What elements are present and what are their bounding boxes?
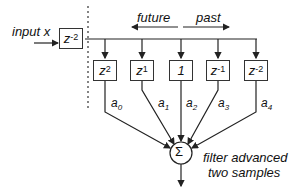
tap-box-3: z-1 bbox=[206, 60, 230, 81]
tap-exp: 2 bbox=[106, 64, 111, 74]
tap-exp: -1 bbox=[217, 64, 225, 74]
future-label: future bbox=[137, 10, 170, 25]
coef-a4: a4 bbox=[261, 96, 272, 112]
tap-base: 1 bbox=[177, 63, 184, 78]
caption-line1: filter advanced bbox=[203, 150, 288, 165]
tap-box-1: z1 bbox=[130, 60, 154, 81]
tap-exp: 1 bbox=[143, 64, 148, 74]
input-delay-box: z-2 bbox=[59, 28, 83, 49]
caption-line2: two samples bbox=[208, 165, 280, 180]
input-delay-exp: -2 bbox=[70, 32, 78, 42]
tap-box-2: 1 bbox=[169, 60, 193, 81]
coef-a2: a2 bbox=[186, 96, 197, 112]
coef-a1: a1 bbox=[158, 96, 169, 112]
input-label: input x bbox=[12, 24, 50, 39]
coef-a3: a3 bbox=[218, 96, 229, 112]
tap-box-4: z-2 bbox=[244, 60, 268, 81]
tap-exp: -2 bbox=[255, 64, 263, 74]
past-label: past bbox=[196, 10, 221, 25]
summer-symbol: Σ bbox=[175, 144, 183, 159]
coef-a0: a0 bbox=[111, 96, 122, 112]
tap-box-0: z2 bbox=[93, 60, 117, 81]
